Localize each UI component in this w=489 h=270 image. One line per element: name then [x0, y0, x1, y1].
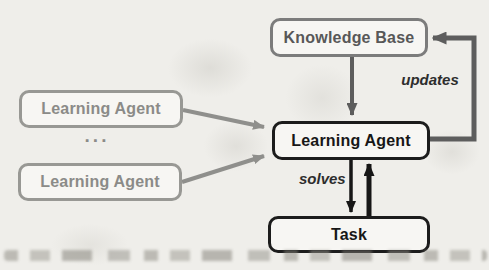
- node-learning-agent-bottom-left-label: Learning Agent: [40, 173, 160, 191]
- diagram-canvas: Knowledge Base Learning Agent Task Learn…: [0, 0, 489, 270]
- node-learning-agent: Learning Agent: [272, 121, 430, 160]
- ellipsis-more-agents: ...: [73, 126, 121, 145]
- node-task-label: Task: [331, 226, 367, 244]
- node-knowledge-base: Knowledge Base: [270, 18, 428, 57]
- node-learning-agent-top-left-label: Learning Agent: [41, 100, 161, 118]
- edge-label-updates: updates: [398, 71, 462, 88]
- node-knowledge-base-label: Knowledge Base: [284, 29, 415, 47]
- edge-left-agent-bottom-arrow: [182, 156, 264, 182]
- edge-agent-updates-kb-arrow: [430, 38, 474, 139]
- scan-artifact-band: [4, 250, 487, 261]
- node-learning-agent-top-left: Learning Agent: [19, 90, 183, 128]
- node-learning-agent-bottom-left: Learning Agent: [18, 163, 182, 201]
- edge-label-solves: solves: [299, 170, 345, 187]
- edge-left-agent-top-arrow: [183, 110, 264, 127]
- node-task: Task: [268, 216, 430, 253]
- node-learning-agent-label: Learning Agent: [291, 132, 411, 150]
